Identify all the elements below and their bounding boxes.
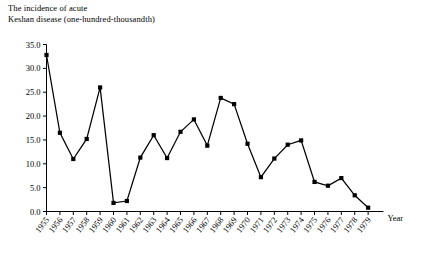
y-tick-label: 20.0 [26, 111, 41, 121]
data-point-marker [245, 142, 249, 146]
data-point-marker [286, 143, 290, 147]
data-point-marker [326, 184, 330, 188]
data-point-marker [259, 175, 263, 179]
data-point-marker [178, 130, 182, 134]
data-point-marker [85, 137, 89, 141]
data-point-marker [299, 138, 303, 142]
data-point-marker [111, 201, 115, 205]
y-tick-label: 0.0 [30, 207, 41, 217]
data-point-marker [272, 156, 276, 160]
data-point-marker [339, 176, 343, 180]
data-point-marker [98, 85, 102, 89]
data-point-marker [152, 133, 156, 137]
plot-area: 0.05.010.015.020.025.030.035.01955195619… [0, 0, 428, 253]
chart-svg: 0.05.010.015.020.025.030.035.01955195619… [0, 0, 428, 253]
data-point-marker [366, 206, 370, 210]
data-point-marker [205, 144, 209, 148]
data-point-marker [125, 199, 129, 203]
data-point-marker [44, 53, 48, 57]
data-point-marker [353, 193, 357, 197]
data-point-marker [219, 96, 223, 100]
x-tick-label: 1979 [355, 215, 373, 235]
y-tick-label: 25.0 [26, 87, 41, 97]
data-point-marker [138, 155, 142, 159]
data-point-marker [312, 180, 316, 184]
chart-figure: The incidence of acute Keshan disease (o… [0, 0, 428, 253]
data-point-marker [58, 131, 62, 135]
y-tick-label: 30.0 [26, 63, 41, 73]
x-axis-title: Year [388, 213, 404, 223]
data-point-marker [232, 102, 236, 106]
y-tick-label: 5.0 [30, 183, 41, 193]
y-tick-label: 15.0 [26, 135, 41, 145]
y-tick-label: 35.0 [26, 40, 41, 50]
data-line-series [47, 55, 369, 208]
data-point-marker [192, 117, 196, 121]
y-tick-label: 10.0 [26, 159, 41, 169]
data-point-marker [165, 156, 169, 160]
data-point-marker [71, 157, 75, 161]
